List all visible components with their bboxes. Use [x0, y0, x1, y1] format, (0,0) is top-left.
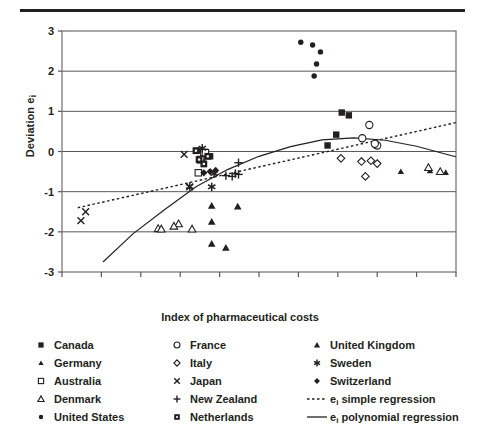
legend-marker-glyph: [305, 392, 329, 406]
legend-item-france: France: [164, 336, 304, 353]
legend-item-sweden: Sweden: [304, 354, 476, 371]
legend-marker-glyph: [29, 410, 53, 424]
marker-filled-square-dot: [193, 147, 200, 154]
x-tick-label: 1.0: [330, 281, 345, 282]
legend-label: ei polynomial regression: [330, 411, 459, 423]
polynomial-regression-line: [103, 138, 456, 262]
legend-marker-open-triangle-icon: [28, 392, 54, 406]
x-axis-title: Index of pharmaceutical costs: [0, 311, 480, 323]
series-united-kingdom: [208, 202, 242, 251]
legend-item-new-zealand: New Zealand: [164, 390, 304, 407]
legend-marker-glyph: [29, 392, 53, 406]
legend-marker-glyph: [165, 374, 189, 388]
legend-item-e-i-simple-regression: ei simple regression: [304, 390, 476, 407]
marker-open-diamond: [358, 158, 366, 166]
legend-marker-glyph: [165, 392, 189, 406]
marker-filled-square-dot: [174, 414, 180, 420]
marker-filled-circle: [310, 42, 315, 47]
marker-filled-square: [346, 112, 352, 118]
legend-item-canada: Canada: [28, 336, 164, 353]
legend-item-switzerland: Switzerland: [304, 372, 476, 389]
marker-filled-circle: [314, 61, 319, 66]
legend-label: Switzerland: [330, 375, 391, 387]
marker-open-diamond: [174, 359, 180, 365]
marker-filled-square: [339, 109, 345, 115]
marker-square-center: [198, 158, 200, 160]
marker-asterisk: [208, 183, 215, 191]
marker-filled-circle: [318, 49, 323, 54]
marker-open-diamond: [362, 173, 370, 181]
marker-plus: [174, 395, 181, 402]
marker-cross-x: [82, 208, 89, 215]
marker-filled-triangle: [234, 203, 242, 210]
x-tick-label: -2.0: [92, 281, 111, 282]
x-tick-label: 0.0: [251, 281, 266, 282]
series-italy: [337, 155, 381, 181]
marker-filled-triangle: [314, 341, 320, 347]
legend-marker-open-square-icon: [28, 374, 54, 388]
series-united-states: [298, 40, 323, 79]
legend-marker-glyph: [165, 410, 189, 424]
legend-label: ei simple regression: [330, 393, 436, 405]
marker-open-diamond: [337, 155, 345, 163]
legend-marker-glyph: [305, 374, 329, 388]
y-tick-label: 1: [48, 105, 54, 117]
legend-item-denmark: Denmark: [28, 390, 164, 407]
marker-square-center: [176, 416, 178, 418]
legend-label: Italy: [190, 357, 212, 369]
legend-label: United Kingdom: [330, 339, 415, 351]
legend-marker-filled-triangle-small-icon: [28, 356, 54, 370]
marker-filled-triangle: [398, 168, 404, 174]
marker-filled-triangle: [208, 218, 216, 225]
plot-area: 3210-1-2-3-2.5-2.0-1.5-1.0-0.50.00.51.01…: [0, 24, 480, 282]
y-tick-label: -3: [44, 266, 54, 278]
legend-label: Denmark: [54, 393, 101, 405]
x-tick-label: -1.0: [171, 281, 190, 282]
x-tick-label: -1.5: [131, 281, 150, 282]
series-japan: [78, 151, 194, 224]
legend-marker-open-diamond-icon: [164, 356, 190, 370]
legend-marker-filled-square-dot-icon: [164, 410, 190, 424]
legend-item-united-states: United States: [28, 408, 164, 425]
y-axis-title-text: Deviation e: [24, 97, 36, 157]
top-rule-divider: [20, 9, 465, 12]
y-tick-label: 3: [48, 25, 54, 37]
legend-item-japan: Japan: [164, 372, 304, 389]
y-tick-label: 0: [48, 146, 54, 158]
legend-marker-cross-x-icon: [164, 374, 190, 388]
y-tick-label: -1: [44, 186, 54, 198]
legend-marker-glyph: [165, 338, 189, 352]
y-tick-label: -2: [44, 226, 54, 238]
x-tick-label: 0.5: [291, 281, 306, 282]
simple-regression-line: [78, 123, 456, 208]
legend-item-united-kingdom: United Kingdom: [304, 336, 476, 353]
legend-marker-glyph: [29, 338, 53, 352]
marker-open-triangle: [425, 164, 433, 171]
marker-open-triangle: [436, 168, 444, 175]
legend-item-germany: Germany: [28, 354, 164, 371]
marker-open-circle: [366, 121, 373, 128]
legend-label: New Zealand: [190, 393, 257, 405]
legend-label: Germany: [54, 357, 102, 369]
legend-label: Australia: [54, 375, 101, 387]
marker-filled-triangle: [38, 360, 43, 365]
legend-item-australia: Australia: [28, 372, 164, 389]
x-tick-label: -2.5: [53, 281, 72, 282]
marker-filled-square: [38, 342, 43, 347]
marker-filled-square-dot: [204, 153, 211, 160]
marker-filled-triangle: [222, 244, 230, 251]
marker-filled-diamond: [314, 378, 320, 384]
marker-filled-circle: [298, 40, 303, 45]
legend-marker-plus-icon: [164, 392, 190, 406]
marker-open-circle: [371, 140, 378, 147]
marker-filled-square-dot: [196, 156, 203, 163]
legend-marker-glyph: [29, 356, 53, 370]
marker-filled-triangle: [208, 240, 216, 247]
legend-label: Netherlands: [190, 411, 254, 423]
marker-asterisk: [314, 359, 320, 366]
legend-marker-filled-diamond-icon: [304, 374, 330, 388]
marker-open-triangle: [188, 225, 196, 232]
legend-label: Sweden: [330, 357, 372, 369]
legend-marker-glyph: [305, 410, 329, 424]
legend-marker-line-solid-icon: [304, 410, 330, 424]
